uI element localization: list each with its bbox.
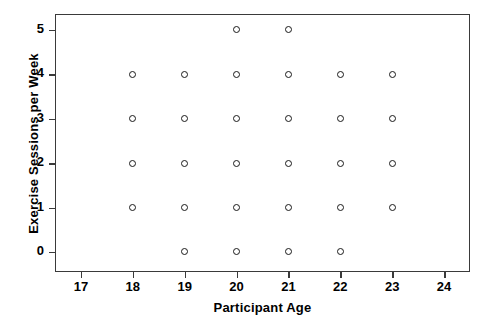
data-point xyxy=(337,71,344,78)
x-tick-label: 20 xyxy=(217,279,257,294)
y-axis-title: Exercise Sessions per Week xyxy=(26,19,41,269)
x-tick-mark xyxy=(237,272,239,278)
x-tick-mark xyxy=(81,272,83,278)
x-tick-mark xyxy=(133,272,135,278)
data-point xyxy=(285,115,292,122)
y-tick-mark xyxy=(49,74,55,76)
data-point xyxy=(389,71,396,78)
x-tick-mark xyxy=(392,272,394,278)
data-point xyxy=(181,71,188,78)
x-tick-mark xyxy=(288,272,290,278)
x-tick-mark xyxy=(444,272,446,278)
x-tick-label: 23 xyxy=(372,279,412,294)
data-point xyxy=(285,160,292,167)
y-tick-mark xyxy=(49,30,55,32)
x-tick-label: 21 xyxy=(268,279,308,294)
data-point xyxy=(337,115,344,122)
data-point xyxy=(389,160,396,167)
x-tick-label: 24 xyxy=(424,279,464,294)
data-point xyxy=(233,71,240,78)
y-tick-mark xyxy=(49,208,55,210)
data-point xyxy=(129,160,136,167)
x-axis-title: Participant Age xyxy=(55,300,470,315)
y-tick-mark xyxy=(49,163,55,165)
data-point xyxy=(389,115,396,122)
data-point xyxy=(389,204,396,211)
data-point xyxy=(285,204,292,211)
data-point xyxy=(129,71,136,78)
data-point xyxy=(181,160,188,167)
x-tick-mark xyxy=(185,272,187,278)
x-tick-mark xyxy=(340,272,342,278)
x-tick-label: 17 xyxy=(61,279,101,294)
y-tick-mark xyxy=(49,119,55,121)
y-tick-mark xyxy=(49,252,55,254)
scatter-plot-figure: 1718192021222324 012345 Participant Age … xyxy=(0,0,487,333)
x-tick-label: 18 xyxy=(113,279,153,294)
data-point xyxy=(233,204,240,211)
x-tick-label: 19 xyxy=(165,279,205,294)
data-point xyxy=(233,160,240,167)
x-tick-label: 22 xyxy=(320,279,360,294)
plot-area xyxy=(55,14,470,272)
data-point xyxy=(285,26,292,33)
data-point xyxy=(337,160,344,167)
data-point xyxy=(285,71,292,78)
data-point xyxy=(337,204,344,211)
